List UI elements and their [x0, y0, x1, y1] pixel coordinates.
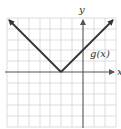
curve-left-branch — [9, 20, 61, 72]
x-axis-label: x — [117, 66, 121, 77]
curve-label: g(x) — [90, 48, 110, 59]
y-axis-label: y — [78, 4, 85, 15]
graph-canvas: y x g(x) — [0, 0, 121, 129]
